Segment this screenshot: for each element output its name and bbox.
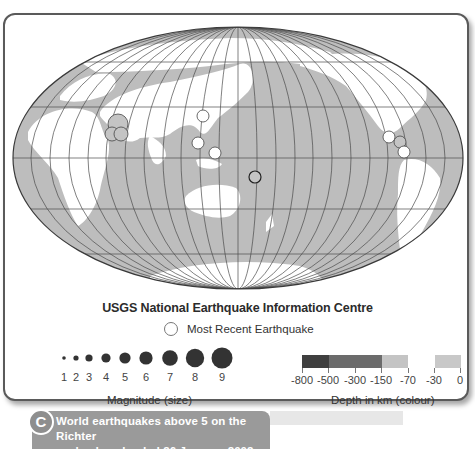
magnitude-dot: [85, 354, 92, 361]
depth-segment: [355, 355, 382, 368]
depth-label: -150: [370, 374, 392, 386]
magnitude-dot: [139, 351, 152, 364]
earthquake-marker: [197, 110, 209, 122]
magnitude-label: 3: [86, 371, 92, 383]
figure-caption: C World earthquakes above 5 on the Richt…: [32, 411, 270, 449]
magnitude-caption: Magnitude (size): [107, 394, 192, 406]
depth-ticks: [302, 368, 461, 373]
earthquake-marker: [192, 137, 204, 149]
magnitude-label: 1: [61, 371, 67, 383]
depth-colour-bar: [302, 355, 461, 368]
depth-label: -500: [317, 374, 339, 386]
most-recent-legend: Most Recent Earthquake: [164, 320, 314, 338]
magnitude-dot: [212, 348, 233, 369]
magnitude-dot: [62, 356, 66, 360]
open-circle-icon: [164, 322, 178, 336]
depth-segment: [408, 355, 435, 368]
caption-line: World earthquakes above 5 on the Richter: [56, 414, 270, 444]
magnitude-label: 6: [143, 371, 149, 383]
page-shadow: [270, 411, 403, 425]
earthquake-marker: [398, 146, 410, 158]
magnitude-dot: [101, 353, 110, 362]
most-recent-label: Most Recent Earthquake: [187, 323, 314, 335]
depth-label: 0: [457, 374, 463, 386]
figure-letter-badge: C: [28, 409, 54, 435]
earthquake-marker: [383, 131, 395, 143]
earthquake-marker: [249, 171, 261, 183]
magnitude-dot: [73, 355, 78, 360]
caption-text: World earthquakes above 5 on the Richter…: [56, 414, 270, 449]
magnitude-label: 5: [122, 371, 128, 383]
depth-segment: [382, 355, 409, 368]
magnitude-dot: [162, 350, 178, 366]
depth-segment: [435, 355, 462, 368]
depth-label: -70: [400, 374, 416, 386]
depth-caption: Depth in km (colour): [331, 394, 435, 406]
caption-line: scale, downloaded 26 January 2002: [56, 444, 270, 449]
magnitude-dot: [186, 349, 204, 367]
earthquake-marker: [114, 127, 128, 141]
magnitude-label: 4: [103, 371, 109, 383]
earthquake-marker: [209, 147, 221, 159]
depth-label: -800: [291, 374, 313, 386]
depth-label: -30: [426, 374, 442, 386]
depth-segment: [302, 355, 329, 368]
depth-segment: [329, 355, 356, 368]
magnitude-label: 7: [167, 371, 173, 383]
magnitude-label: 9: [219, 371, 225, 383]
depth-label: -300: [344, 374, 366, 386]
magnitude-label: 2: [73, 371, 79, 383]
magnitude-dots: [62, 348, 232, 369]
magnitude-dot: [119, 352, 130, 363]
magnitude-label: 8: [192, 371, 198, 383]
legend-title: USGS National Earthquake Information Cen…: [0, 301, 475, 315]
